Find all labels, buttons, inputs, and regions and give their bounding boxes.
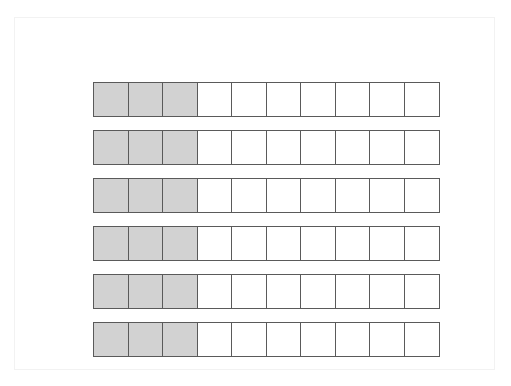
bar-cell-empty[interactable] bbox=[231, 130, 267, 165]
bar-cell-shaded[interactable] bbox=[162, 130, 198, 165]
bar-cell-empty[interactable] bbox=[266, 274, 302, 309]
bar-cell-shaded[interactable] bbox=[162, 82, 198, 117]
figure-canvas bbox=[0, 0, 511, 386]
bar-cell-empty[interactable] bbox=[266, 322, 302, 357]
bar-cell-empty[interactable] bbox=[266, 130, 302, 165]
bar-cell-shaded[interactable] bbox=[162, 274, 198, 309]
fraction-bar bbox=[93, 226, 440, 261]
bar-cell-shaded[interactable] bbox=[128, 226, 164, 261]
bar-cell-shaded[interactable] bbox=[128, 130, 164, 165]
bar-cell-empty[interactable] bbox=[404, 322, 440, 357]
bar-cell-empty[interactable] bbox=[335, 130, 371, 165]
bar-cell-empty[interactable] bbox=[404, 274, 440, 309]
figure-frame bbox=[14, 17, 495, 370]
bar-cell-empty[interactable] bbox=[300, 226, 336, 261]
bar-cell-shaded[interactable] bbox=[93, 130, 129, 165]
bar-cell-empty[interactable] bbox=[335, 226, 371, 261]
bar-cell-empty[interactable] bbox=[369, 322, 405, 357]
bar-cell-empty[interactable] bbox=[369, 82, 405, 117]
bar-cell-shaded[interactable] bbox=[93, 178, 129, 213]
bar-cell-empty[interactable] bbox=[369, 274, 405, 309]
fraction-bar bbox=[93, 274, 440, 309]
bar-cell-empty[interactable] bbox=[197, 274, 233, 309]
bar-cell-empty[interactable] bbox=[266, 178, 302, 213]
bar-cell-empty[interactable] bbox=[404, 178, 440, 213]
fraction-bar bbox=[93, 130, 440, 165]
bar-cell-shaded[interactable] bbox=[128, 322, 164, 357]
bar-cell-empty[interactable] bbox=[231, 274, 267, 309]
bar-cell-shaded[interactable] bbox=[93, 274, 129, 309]
bar-cell-empty[interactable] bbox=[197, 178, 233, 213]
bar-cell-shaded[interactable] bbox=[128, 82, 164, 117]
fraction-bar bbox=[93, 82, 440, 117]
bar-cell-empty[interactable] bbox=[197, 130, 233, 165]
bar-cell-shaded[interactable] bbox=[93, 226, 129, 261]
bar-cell-empty[interactable] bbox=[300, 274, 336, 309]
fraction-bar bbox=[93, 178, 440, 213]
bar-cell-empty[interactable] bbox=[231, 226, 267, 261]
bar-cell-empty[interactable] bbox=[266, 82, 302, 117]
bar-cell-empty[interactable] bbox=[335, 274, 371, 309]
bar-cell-empty[interactable] bbox=[369, 178, 405, 213]
bar-cell-empty[interactable] bbox=[335, 322, 371, 357]
bar-cell-shaded[interactable] bbox=[162, 322, 198, 357]
bar-cell-empty[interactable] bbox=[404, 130, 440, 165]
bar-cell-empty[interactable] bbox=[197, 82, 233, 117]
bar-cell-empty[interactable] bbox=[197, 322, 233, 357]
bar-cell-empty[interactable] bbox=[300, 178, 336, 213]
bar-cell-empty[interactable] bbox=[231, 82, 267, 117]
bar-cell-shaded[interactable] bbox=[162, 226, 198, 261]
fraction-bars-group bbox=[93, 82, 440, 357]
bar-cell-empty[interactable] bbox=[369, 226, 405, 261]
bar-cell-shaded[interactable] bbox=[128, 178, 164, 213]
bar-cell-empty[interactable] bbox=[335, 178, 371, 213]
bar-cell-empty[interactable] bbox=[197, 226, 233, 261]
bar-cell-empty[interactable] bbox=[300, 82, 336, 117]
bar-cell-shaded[interactable] bbox=[162, 178, 198, 213]
bar-cell-empty[interactable] bbox=[300, 322, 336, 357]
bar-cell-empty[interactable] bbox=[266, 226, 302, 261]
bar-cell-empty[interactable] bbox=[369, 130, 405, 165]
bar-cell-shaded[interactable] bbox=[93, 82, 129, 117]
bar-cell-empty[interactable] bbox=[335, 82, 371, 117]
bar-cell-empty[interactable] bbox=[231, 322, 267, 357]
bar-cell-empty[interactable] bbox=[404, 82, 440, 117]
bar-cell-empty[interactable] bbox=[231, 178, 267, 213]
bar-cell-empty[interactable] bbox=[404, 226, 440, 261]
bar-cell-shaded[interactable] bbox=[93, 322, 129, 357]
bar-cell-shaded[interactable] bbox=[128, 274, 164, 309]
fraction-bar bbox=[93, 322, 440, 357]
bar-cell-empty[interactable] bbox=[300, 130, 336, 165]
